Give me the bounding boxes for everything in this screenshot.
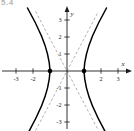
axes-group — [2, 6, 132, 129]
x-axis-label: x — [120, 60, 125, 68]
y-axis-label: y — [69, 10, 74, 18]
hyperbola-right-branch-lower-path — [84, 71, 107, 131]
x-tick-label-2: 2 — [99, 75, 102, 82]
y-tick-label--1: -1 — [56, 84, 61, 91]
hyperbola-plot: -3 -2 2 3 3 2 1 -1 -2 -3 x y — [0, 0, 134, 131]
y-tick-label-3: 3 — [58, 16, 61, 23]
vertex-left-point — [48, 69, 53, 74]
y-tick-label-2: 2 — [58, 33, 61, 40]
y-axis-arrow-icon — [65, 6, 70, 12]
x-tick-label-3: 3 — [116, 75, 119, 82]
x-tick-labels: -3 -2 2 3 — [13, 75, 119, 82]
hyperbola-right-branch-path — [84, 8, 107, 71]
hyperbola-figure: 5.4 — [0, 0, 134, 131]
x-tick-label--3: -3 — [13, 75, 18, 82]
x-tick-label--2: -2 — [30, 75, 35, 82]
y-tick-label--3: -3 — [56, 118, 61, 125]
vertex-right-point — [82, 69, 87, 74]
y-tick-label-1: 1 — [58, 50, 61, 57]
y-tick-label--2: -2 — [56, 101, 61, 108]
x-axis-arrow-icon — [126, 69, 132, 74]
